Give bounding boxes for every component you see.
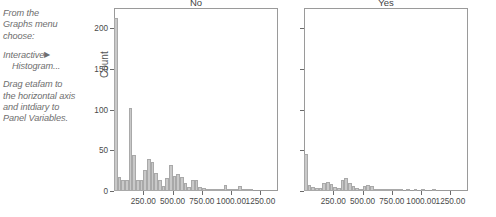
x-axis-tick bbox=[143, 191, 144, 195]
histogram-panel-no: No250.00500.00750.001000.001250.00050100… bbox=[114, 8, 278, 191]
drag-line-4: Panel Variables. bbox=[3, 113, 101, 124]
drag-line-1: Drag etafam to bbox=[3, 79, 101, 90]
y-axis-tick bbox=[300, 28, 304, 29]
menu-item-label: Interactive bbox=[3, 50, 44, 60]
y-axis-label: 50 bbox=[99, 146, 108, 155]
x-axis-label: 1250.00 bbox=[246, 197, 276, 206]
y-axis-tick bbox=[300, 110, 304, 111]
y-axis-tick bbox=[110, 28, 114, 29]
x-axis-label: 250.00 bbox=[321, 197, 346, 206]
y-axis-tick bbox=[110, 110, 114, 111]
y-axis-label: 200 bbox=[94, 24, 108, 33]
x-axis-label: 1000.00 bbox=[406, 197, 436, 206]
y-axis-tick bbox=[300, 69, 304, 70]
histogram-bar bbox=[249, 189, 253, 191]
x-axis-tick bbox=[450, 191, 451, 195]
y-axis-label: 0 bbox=[103, 187, 108, 196]
instruction-line-3: choose: bbox=[3, 31, 101, 42]
spacer bbox=[3, 72, 101, 79]
menu-item-histogram: Histogram... bbox=[3, 61, 101, 72]
x-axis-label: 750.00 bbox=[189, 197, 214, 206]
instruction-line-2: Graphs menu bbox=[3, 19, 101, 30]
x-axis-tick bbox=[173, 191, 174, 195]
bar-series bbox=[304, 8, 468, 191]
x-axis-tick bbox=[333, 191, 334, 195]
screenshot-root: From the Graphs menu choose: Interactive… bbox=[0, 0, 496, 217]
x-axis-tick bbox=[363, 191, 364, 195]
x-axis-label: 500.00 bbox=[160, 197, 185, 206]
x-axis-tick bbox=[260, 191, 261, 195]
x-axis-label: 500.00 bbox=[350, 197, 375, 206]
histogram-bar bbox=[414, 189, 418, 191]
y-axis-tick bbox=[300, 150, 304, 151]
instruction-text: From the Graphs menu choose: Interactive… bbox=[3, 8, 101, 125]
histogram-bar bbox=[114, 18, 118, 191]
x-axis-tick bbox=[231, 191, 232, 195]
menu-path-interactive: Interactive▶ bbox=[3, 49, 101, 61]
submenu-arrow-icon: ▶ bbox=[44, 50, 50, 59]
x-axis-label: 250.00 bbox=[131, 197, 156, 206]
y-axis-label: 100 bbox=[94, 105, 108, 114]
x-axis-tick bbox=[392, 191, 393, 195]
y-axis-tick bbox=[110, 191, 114, 192]
bar-series bbox=[114, 8, 278, 191]
y-axis-tick bbox=[110, 150, 114, 151]
instruction-line-1: From the bbox=[3, 8, 101, 19]
panel-title-no: No bbox=[114, 0, 278, 8]
histogram-bar bbox=[399, 189, 403, 191]
x-axis-label: 1000.00 bbox=[216, 197, 246, 206]
x-axis-tick bbox=[421, 191, 422, 195]
drag-line-3: and intdiary to bbox=[3, 102, 101, 113]
histogram-bar bbox=[406, 189, 410, 191]
histogram-bar bbox=[432, 189, 436, 191]
panel-title-yes: Yes bbox=[304, 0, 468, 8]
spacer bbox=[3, 42, 101, 49]
x-axis-label: 1250.00 bbox=[436, 197, 466, 206]
drag-line-2: the horizontal axis bbox=[3, 91, 101, 102]
y-axis-label: 150 bbox=[94, 65, 108, 74]
x-axis-label: 750.00 bbox=[379, 197, 404, 206]
x-axis-tick bbox=[202, 191, 203, 195]
y-axis-tick bbox=[110, 69, 114, 70]
y-axis-tick bbox=[300, 191, 304, 192]
histogram-panel-yes: Yes250.00500.00750.001000.001250.00 bbox=[304, 8, 468, 191]
